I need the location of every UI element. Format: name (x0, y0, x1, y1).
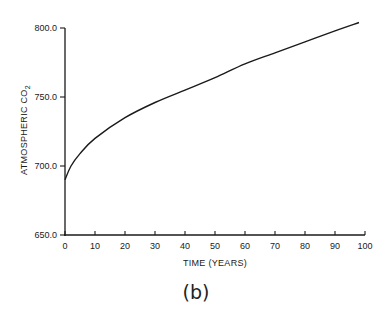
y-axis-label: ATMOSPHERIC CO2 (19, 85, 31, 175)
chart: 0102030405060708090100650.0700.0750.0800… (0, 0, 392, 319)
y-tick-label: 800.0 (34, 23, 57, 33)
x-axis-label: TIME (YEARS) (183, 258, 247, 268)
x-tick-label: 10 (90, 241, 100, 251)
x-tick-label: 0 (62, 241, 67, 251)
y-tick-label: 700.0 (34, 161, 57, 171)
x-tick-label: 90 (330, 241, 340, 251)
x-tick-label: 80 (300, 241, 310, 251)
axes: 0102030405060708090100650.0700.0750.0800… (34, 23, 372, 251)
co2-curve (65, 23, 359, 180)
x-tick-label: 20 (120, 241, 130, 251)
x-tick-label: 70 (270, 241, 280, 251)
x-tick-label: 50 (210, 241, 220, 251)
y-tick-label: 650.0 (34, 230, 57, 240)
x-tick-label: 40 (180, 241, 190, 251)
y-tick-label: 750.0 (34, 92, 57, 102)
x-tick-label: 30 (150, 241, 160, 251)
x-tick-label: 100 (357, 241, 372, 251)
x-tick-label: 60 (240, 241, 250, 251)
figure-caption: (b) (0, 281, 392, 303)
